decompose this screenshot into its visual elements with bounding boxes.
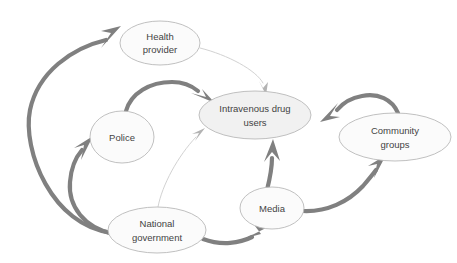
node-label-line-2: government xyxy=(132,232,183,243)
node-shape[interactable] xyxy=(339,113,451,161)
stakeholder-influence-diagram: Health provider Intravenous drug users P… xyxy=(0,0,457,263)
edge-health-provider-to-intravenous-drug-users xyxy=(200,48,268,95)
node-police[interactable]: Police xyxy=(90,111,154,163)
node-shape[interactable] xyxy=(199,91,311,139)
node-label-line-1: Police xyxy=(109,132,135,143)
edge-natgov-to-intravenous-drug-users xyxy=(158,128,205,207)
node-health-provider[interactable]: Health provider xyxy=(120,21,200,65)
edge-path xyxy=(267,158,272,190)
node-label-line-2: groups xyxy=(380,139,409,150)
edge-natgov-to-media xyxy=(203,226,270,243)
node-shape[interactable] xyxy=(108,207,206,253)
node-community-groups[interactable]: Community groups xyxy=(339,113,451,161)
node-label-line-1: Intravenous drug xyxy=(219,103,290,114)
node-national-government[interactable]: National government xyxy=(108,207,206,253)
edge-media-to-community-groups xyxy=(303,155,386,211)
edge-path xyxy=(203,237,252,243)
node-intravenous-drug-users[interactable]: Intravenous drug users xyxy=(199,91,311,139)
node-label-line-2: users xyxy=(243,117,266,128)
edge-path xyxy=(337,95,398,113)
arrowhead-icon xyxy=(101,26,121,48)
node-media[interactable]: Media xyxy=(240,187,304,229)
edge-path xyxy=(303,170,376,211)
edge-path xyxy=(126,82,198,111)
node-label-line-1: National xyxy=(140,218,175,229)
edge-media-to-intravenous-drug-users xyxy=(264,139,280,190)
node-label-line-1: Media xyxy=(259,203,286,214)
node-label-line-1: Community xyxy=(371,125,419,136)
edge-path xyxy=(158,137,196,207)
edge-police-to-intravenous-drug-users xyxy=(126,82,215,111)
node-label-line-1: Health xyxy=(146,31,173,42)
arrowhead-icon xyxy=(320,103,340,122)
node-label-line-2: provider xyxy=(143,44,177,55)
edge-path xyxy=(200,48,263,83)
diagram-canvas: Health provider Intravenous drug users P… xyxy=(0,0,457,263)
